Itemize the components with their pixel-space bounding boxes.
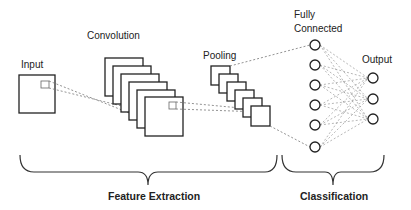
convolution-label: Convolution bbox=[87, 30, 140, 41]
pooling-stack bbox=[211, 66, 270, 126]
feature-extraction-brace bbox=[20, 155, 277, 185]
input-label: Input bbox=[21, 59, 43, 70]
input-box bbox=[19, 75, 55, 113]
input-receptive-field bbox=[41, 81, 49, 88]
output-label: Output bbox=[362, 54, 392, 65]
fc-output-connections bbox=[320, 45, 368, 147]
classification-brace bbox=[282, 155, 384, 185]
cnn-diagram bbox=[0, 0, 411, 210]
feature-extraction-label: Feature Extraction bbox=[108, 190, 200, 202]
fully-connected-label-1: Fully bbox=[294, 9, 315, 20]
classification-label: Classification bbox=[300, 190, 368, 202]
fully-connected-nodes bbox=[310, 40, 320, 152]
convolution-stack bbox=[105, 58, 183, 136]
output-nodes bbox=[368, 73, 378, 124]
fully-connected-label-2: Connected bbox=[294, 23, 342, 34]
pooling-label: Pooling bbox=[203, 50, 236, 61]
